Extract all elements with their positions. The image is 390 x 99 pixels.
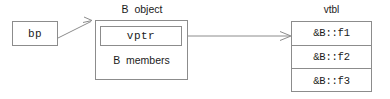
- vtbl-entry-label: &B::f2: [313, 51, 350, 63]
- vptr-slot-box: vptr: [100, 26, 182, 46]
- vtbl-row: &B::f3: [292, 69, 371, 93]
- b-members-label: B members: [95, 54, 188, 66]
- vtbl-row: &B::f1: [292, 22, 371, 46]
- vtbl-caption: vtbl: [291, 4, 372, 15]
- vtbl-table: &B::f1 &B::f2 &B::f3: [291, 21, 372, 92]
- b-object-caption: B object: [95, 3, 189, 15]
- bp-pointer-box: bp: [12, 21, 58, 46]
- vtable-diagram: bp B object vptr B members vtbl &B::f1 &…: [0, 0, 390, 99]
- vtbl-row: &B::f2: [292, 46, 371, 70]
- vtbl-entry-label: &B::f3: [313, 75, 350, 87]
- vptr-label: vptr: [127, 30, 155, 42]
- bp-pointer-label: bp: [28, 28, 42, 40]
- arrow-bp-to-object: [58, 17, 92, 38]
- vtbl-entry-label: &B::f1: [313, 27, 350, 39]
- arrow-vptr-to-vtbl: [188, 32, 291, 41]
